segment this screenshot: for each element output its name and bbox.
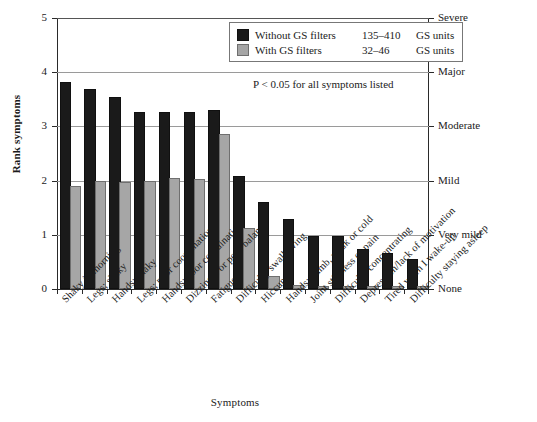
x-tick-mark xyxy=(379,290,380,294)
legend-units-without-gs-filters: GS units xyxy=(416,29,454,41)
gridline xyxy=(57,72,429,73)
y-tick-mark xyxy=(52,181,57,182)
axis-line-bottom xyxy=(57,289,429,290)
legend-label-without-gs-filters: Without GS filters xyxy=(255,29,362,41)
x-tick-mark xyxy=(57,290,58,294)
bar xyxy=(318,286,330,289)
y-tick-mark xyxy=(52,18,57,19)
y-tick-label: 0 xyxy=(29,283,47,294)
y2-tick-label: Major xyxy=(438,66,465,77)
x-tick-mark xyxy=(305,290,306,294)
y2-tick-mark xyxy=(429,181,434,182)
y-tick-mark xyxy=(52,235,57,236)
x-tick-mark xyxy=(330,290,331,294)
x-tick-mark xyxy=(255,290,256,294)
x-tick-mark xyxy=(280,290,281,294)
bar xyxy=(407,259,419,289)
x-tick-mark xyxy=(231,290,232,294)
x-tick-mark xyxy=(131,290,132,294)
y2-tick-mark xyxy=(429,72,434,73)
bar xyxy=(382,253,394,289)
y-tick-label: 1 xyxy=(29,229,47,240)
bar xyxy=(343,286,355,289)
y2-tick-label: Moderate xyxy=(438,120,480,131)
x-axis-title: Symptoms xyxy=(0,396,470,408)
legend-range-with-gs-filters: 32–46 xyxy=(362,44,416,56)
x-tick-mark xyxy=(355,290,356,294)
y2-tick-mark xyxy=(429,18,434,19)
legend-swatch-light-icon xyxy=(237,44,249,56)
y2-tick-mark xyxy=(429,126,434,127)
x-tick-mark xyxy=(181,290,182,294)
bar xyxy=(332,236,344,289)
y2-tick-label: Mild xyxy=(438,175,459,186)
bar xyxy=(243,228,255,289)
bar xyxy=(194,179,206,289)
bar xyxy=(144,181,156,289)
x-tick-mark xyxy=(206,290,207,294)
legend-item-without-gs-filters: Without GS filters 135–410 GS units xyxy=(237,27,454,42)
chart-figure: Rank symptoms Symptoms 0None1Very mild2M… xyxy=(0,0,537,422)
bar xyxy=(119,182,131,289)
chart-legend: Without GS filters 135–410 GS units With… xyxy=(229,22,463,62)
bar xyxy=(283,219,295,289)
x-tick-mark xyxy=(107,290,108,294)
bar xyxy=(308,236,320,289)
y-tick-label: 3 xyxy=(29,120,47,131)
bar xyxy=(293,285,305,289)
y-tick-mark xyxy=(52,72,57,73)
y-tick-label: 2 xyxy=(29,175,47,186)
bar xyxy=(70,186,82,289)
p-value-annotation: P < 0.05 for all symptoms listed xyxy=(253,78,394,90)
y2-tick-mark xyxy=(429,289,434,290)
legend-units-with-gs-filters: GS units xyxy=(416,44,454,56)
bar xyxy=(417,286,429,289)
axis-line-left xyxy=(57,18,58,290)
x-tick-mark xyxy=(404,290,405,294)
y-tick-mark xyxy=(52,126,57,127)
legend-item-with-gs-filters: With GS filters 32–46 GS units xyxy=(237,42,454,57)
y-axis-title: Rank symptoms xyxy=(10,74,22,194)
bar xyxy=(367,286,379,289)
bar xyxy=(95,181,107,289)
gridline xyxy=(57,18,429,19)
bar xyxy=(219,134,231,289)
y2-tick-label: Very mild xyxy=(438,229,482,240)
y-tick-label: 4 xyxy=(29,66,47,77)
y-tick-label: 5 xyxy=(29,12,47,23)
legend-swatch-dark-icon xyxy=(237,29,249,41)
legend-label-with-gs-filters: With GS filters xyxy=(255,44,362,56)
bar xyxy=(169,178,181,289)
legend-range-without-gs-filters: 135–410 xyxy=(362,29,416,41)
x-tick-mark xyxy=(156,290,157,294)
y2-tick-label: None xyxy=(438,283,462,294)
x-tick-mark xyxy=(82,290,83,294)
bar xyxy=(357,249,369,289)
bar xyxy=(392,286,404,289)
x-tick-mark xyxy=(428,290,429,294)
y2-tick-mark xyxy=(429,235,434,236)
bar xyxy=(268,276,280,289)
